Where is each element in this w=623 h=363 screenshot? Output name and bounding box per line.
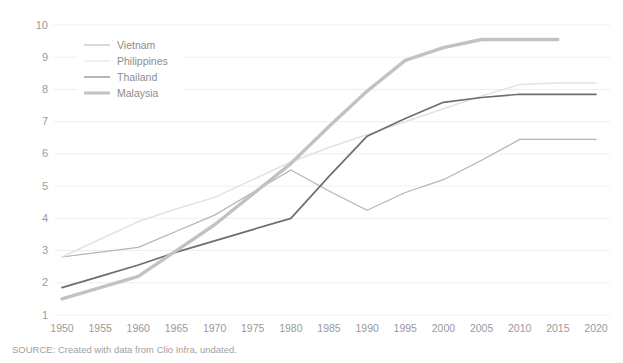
x-tick-label: 2020: [576, 323, 616, 334]
x-tick-label: 1995: [385, 323, 425, 334]
legend-item-philippines[interactable]: Philippines: [84, 53, 178, 68]
x-tick-label: 1965: [156, 323, 196, 334]
x-tick-label: 1960: [118, 323, 158, 334]
legend-swatch-icon: [84, 72, 110, 82]
x-tick-label: 1955: [80, 323, 120, 334]
y-tick-label: 8: [26, 84, 48, 95]
y-tick-label: 7: [26, 116, 48, 127]
legend-item-malaysia[interactable]: Malaysia: [84, 85, 178, 100]
source-note: SOURCE: Created with data from Clio Infr…: [12, 344, 237, 355]
y-tick-label: 10: [26, 20, 48, 31]
y-tick-label: 2: [26, 277, 48, 288]
x-tick-label: 1970: [195, 323, 235, 334]
legend-item-thailand[interactable]: Thailand: [84, 69, 178, 84]
series-line-philippines: [62, 83, 596, 257]
legend-label: Malaysia: [117, 87, 158, 99]
y-tick-label: 3: [26, 245, 48, 256]
line-chart: Average years of education 12345678910 1…: [0, 0, 623, 363]
x-tick-label: 2015: [538, 323, 578, 334]
legend-swatch-icon: [84, 88, 110, 98]
x-tick-label: 1975: [233, 323, 273, 334]
legend-label: Philippines: [117, 55, 168, 67]
x-tick-label: 1980: [271, 323, 311, 334]
y-tick-label: 6: [26, 148, 48, 159]
legend-swatch-icon: [84, 56, 110, 66]
x-tick-label: 2010: [500, 323, 540, 334]
y-tick-label: 5: [26, 181, 48, 192]
legend-label: Vietnam: [117, 39, 155, 51]
chart-legend: VietnamPhilippinesThailandMalaysia: [78, 33, 184, 100]
legend-label: Thailand: [117, 71, 157, 83]
x-tick-label: 1985: [309, 323, 349, 334]
y-tick-label: 1: [26, 310, 48, 321]
x-tick-label: 2000: [423, 323, 463, 334]
y-tick-label: 4: [26, 213, 48, 224]
x-tick-label: 1950: [42, 323, 82, 334]
legend-swatch-icon: [84, 40, 110, 50]
x-tick-label: 1990: [347, 323, 387, 334]
series-line-vietnam: [62, 139, 596, 257]
y-tick-label: 9: [26, 52, 48, 63]
legend-item-vietnam[interactable]: Vietnam: [84, 37, 178, 52]
x-tick-label: 2005: [462, 323, 502, 334]
